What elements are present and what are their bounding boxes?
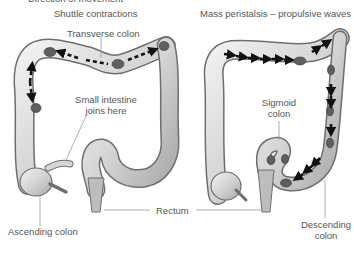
left-colon <box>20 42 170 213</box>
transverse-colon-label: Transverse colon <box>67 28 140 39</box>
sigmoid-colon-label: Sigmoid colon <box>255 97 303 119</box>
ascending-colon-label: Ascending colon <box>8 226 78 237</box>
mass-peristalsis-title: Mass peristalsis – propulsive waves <box>200 8 351 19</box>
shuttle-contractions-title: Shuttle contractions <box>54 8 137 19</box>
leader-lines <box>40 37 325 226</box>
colon-illustration <box>0 0 354 255</box>
descending-colon-label: Descending colon <box>296 219 354 241</box>
right-colon <box>211 38 340 212</box>
rectum-label: Rectum <box>156 205 189 216</box>
small-intestine-label: Small intestine joins here <box>66 94 146 116</box>
